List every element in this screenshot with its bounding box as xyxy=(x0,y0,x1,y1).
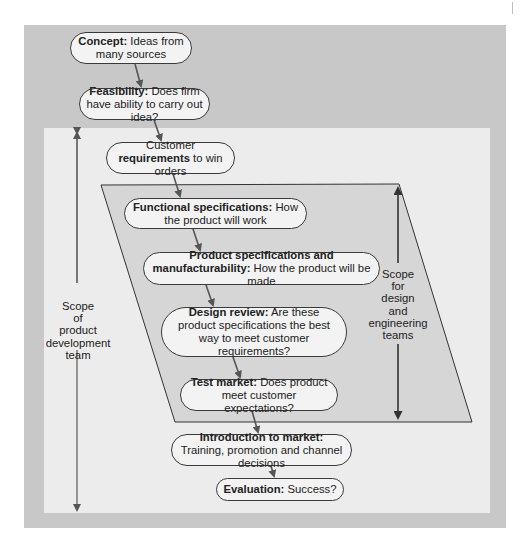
node-design-review-title: Design review: xyxy=(189,306,269,318)
node-test-market-title: Test market: xyxy=(191,376,257,388)
node-test-market: Test market: Does product meet customer … xyxy=(180,379,338,411)
node-design-review: Design review: Are these product specifi… xyxy=(161,307,347,357)
node-functional-specifications: Functional specifications: How the produ… xyxy=(124,198,307,229)
node-product-specs-text: How the product will be made xyxy=(247,262,370,287)
node-customer-requirements: Customer requirements to win orders xyxy=(106,142,235,174)
node-introduction-to-market: Introduction to market: Training, promot… xyxy=(171,434,352,466)
product-team-scope-label: Scope of product development team xyxy=(40,300,116,361)
node-functional-title: Functional specifications: xyxy=(133,201,272,213)
node-product-specifications: Product specifications and manufacturabi… xyxy=(143,252,380,285)
design-team-scope-label: Scope for design and engineering teams xyxy=(366,268,430,341)
scope-line: of xyxy=(40,312,116,324)
scope-line: Scope xyxy=(366,268,430,280)
node-evaluation-text: Success? xyxy=(284,483,336,495)
node-feasibility: Feasibility: Does firm have ability to c… xyxy=(79,88,210,120)
node-evaluation-title: Evaluation: xyxy=(223,483,284,495)
scope-line: product xyxy=(40,324,116,336)
node-evaluation: Evaluation: Success? xyxy=(216,478,344,501)
scope-line: Scope xyxy=(40,300,116,312)
node-introduction-title: Introduction to market: xyxy=(200,431,324,443)
scope-line: team xyxy=(40,349,116,361)
scope-line: for xyxy=(366,280,430,292)
scope-line: design xyxy=(366,292,430,304)
node-concept-title: Concept: xyxy=(78,35,127,47)
node-feasibility-title: Feasibility: xyxy=(89,85,148,97)
node-customer-pre: Customer xyxy=(146,139,195,151)
node-concept: Concept: Ideas from many sources xyxy=(70,32,192,64)
scope-line: development xyxy=(40,337,116,349)
scope-line: engineering xyxy=(366,317,430,329)
node-customer-title: requirements xyxy=(118,152,190,164)
scope-line: and xyxy=(366,305,430,317)
scope-line: teams xyxy=(366,329,430,341)
node-introduction-text: Training, promotion and channel decision… xyxy=(181,444,343,469)
